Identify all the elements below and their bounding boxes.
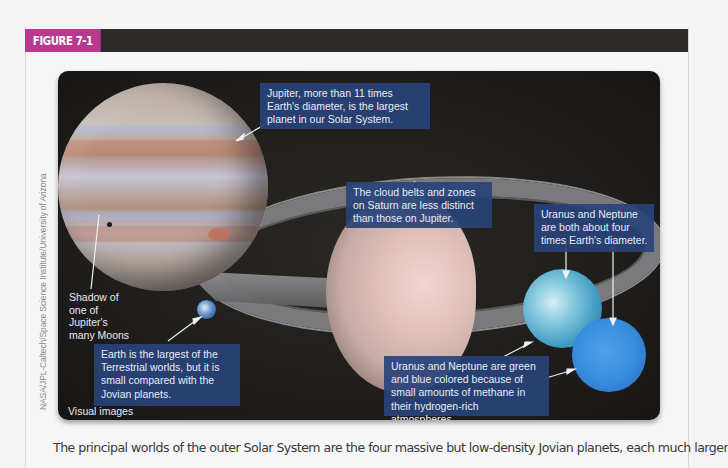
jupiter-planet [58,83,268,291]
callout-uranus-neptune-color: Uranus and Neptune are green and blue co… [384,356,549,416]
figure-header-bar: FIGURE 7-1 [25,29,688,52]
earth-planet [197,300,216,319]
callout-jupiter: Jupiter, more than 11 times Earth's diam… [260,83,430,129]
neptune-planet [572,318,646,392]
callout-saturn: The cloud belts and zones on Saturn are … [346,182,492,228]
moon-shadow-dot [107,222,112,227]
image-credit: NASA/JPL-Caltech/Space Science Institute… [38,140,52,410]
label-visual-images: Visual images [68,405,133,418]
label-moon-shadow: Shadow of one of Jupiter's many Moons [69,291,133,341]
great-red-spot [208,228,230,241]
callout-uranus-neptune-size: Uranus and Neptune are both about four t… [534,204,654,252]
callout-earth: Earth is the largest of the Terrestrial … [94,344,240,406]
figure-label: FIGURE 7-1 [25,29,101,52]
caption-text: The principal worlds of the outer Solar … [53,440,693,455]
planets-image-panel: Jupiter, more than 11 times Earth's diam… [58,71,660,420]
